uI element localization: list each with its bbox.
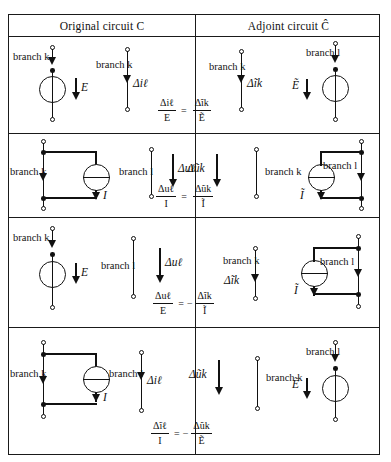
lhs-denominator: E xyxy=(158,304,168,317)
source-arrow-icon xyxy=(72,276,80,284)
source-symbol-label: E xyxy=(81,266,88,278)
wire-bottom-rail xyxy=(320,197,362,199)
terminal-bottom-node xyxy=(50,117,55,122)
terminal-bottom-node xyxy=(254,194,259,199)
source-symbol-label: Ẽ xyxy=(292,378,299,390)
wire-source-top xyxy=(320,152,322,166)
source-arrow-icon xyxy=(303,391,311,399)
row-1-right-cell: branch k Δĩk branch l Ẽ xyxy=(196,37,381,133)
current-source-symbol xyxy=(83,164,110,191)
lhs-numerator: Δuℓ xyxy=(156,183,176,197)
terminal-bottom-node xyxy=(41,206,46,211)
response-quantity-label: Δĩk xyxy=(224,274,239,286)
row-3-equation: Δuℓ E = − Δĩk Ĩ xyxy=(151,290,216,316)
wire-top-rail xyxy=(313,247,359,249)
rhs-denominator: Ĩ xyxy=(199,197,206,210)
branch-label: branch k xyxy=(265,166,301,177)
lhs-numerator: Δiℓ xyxy=(158,97,176,111)
branch-label: branch l xyxy=(109,368,143,379)
rhs-fraction: Δĩk Ĩ xyxy=(194,290,216,316)
rhs-denominator: Ẽ xyxy=(197,111,207,124)
source-symbol-label: Ẽ xyxy=(292,79,299,91)
voltage-arrow-icon xyxy=(215,387,223,395)
sign-prefix: − xyxy=(187,298,194,309)
voltage-arrow-icon xyxy=(156,275,164,283)
row-3-right-cell: branch k Δĩk Ĩ branch l xyxy=(196,218,381,327)
rhs-denominator: Ĩ xyxy=(201,304,208,317)
response-quantity-label: Δuℓ xyxy=(165,256,182,268)
branch-label: branch k xyxy=(209,61,245,72)
lhs-numerator: Δuℓ xyxy=(153,290,173,304)
branch-label: branch k xyxy=(10,166,46,177)
source-symbol-label: E xyxy=(81,81,88,93)
voltage-source-symbol xyxy=(322,75,349,102)
lhs-fraction: Δuℓ I xyxy=(154,183,178,209)
source-arrow-icon xyxy=(72,92,80,100)
wire-bottom-rail xyxy=(313,293,359,295)
branch-label: branch k xyxy=(13,51,49,62)
current-arrow-icon xyxy=(123,75,131,83)
wire-source-top xyxy=(313,248,315,262)
branch-label: branch k xyxy=(10,368,46,379)
sign-prefix: − xyxy=(183,428,190,439)
source-arrow-icon xyxy=(303,92,311,100)
response-quantity-label: Δũk xyxy=(187,162,205,174)
header-original-circuit: Original circuit C xyxy=(9,15,195,37)
branch-wire xyxy=(257,360,259,408)
current-arrow-icon xyxy=(251,274,259,282)
current-arrow-icon xyxy=(48,240,56,248)
rhs-numerator: Δũk xyxy=(191,420,211,434)
wire-top-rail xyxy=(43,151,97,153)
source-arrow-icon xyxy=(92,394,100,402)
source-symbol-label: I xyxy=(103,189,107,201)
row-1-equation: Δiℓ E = Δĩk Ẽ xyxy=(156,97,213,123)
rhs-numerator: Δũk xyxy=(193,183,213,197)
rhs-denominator: Ẽ xyxy=(196,434,206,447)
branch-label: branch k xyxy=(223,255,259,266)
header-adjoint-circuit: Adjoint circuit Ĉ xyxy=(196,15,381,37)
terminal-bottom-node xyxy=(356,304,361,309)
branch-label: branch l xyxy=(323,160,357,171)
wire-top-rail xyxy=(320,151,362,153)
current-arrow-icon xyxy=(354,269,362,277)
branch-label: branch k xyxy=(13,232,49,243)
rhs-numerator: Δĩk xyxy=(193,97,211,111)
terminal-bottom-node xyxy=(41,414,46,419)
terminal-bottom-node xyxy=(239,107,244,112)
current-arrow-icon xyxy=(237,75,245,83)
row-4-equation: Δĩℓ I = − Δũk Ẽ xyxy=(149,420,214,446)
wire-bottom-rail xyxy=(43,197,97,199)
wire-top-rail xyxy=(43,353,97,355)
current-arrow-icon xyxy=(48,57,56,65)
terminal-bottom-node xyxy=(255,406,260,411)
voltage-source-symbol xyxy=(322,375,349,402)
response-quantity-label: Δĩk xyxy=(247,77,262,89)
branch-label: branch l xyxy=(306,346,340,357)
terminal-bottom-node xyxy=(50,305,55,310)
source-symbol-label: I xyxy=(103,391,107,403)
equals-sign: = xyxy=(175,298,187,309)
terminal-bottom-node xyxy=(359,206,364,211)
response-quantity-label: Δũk xyxy=(189,368,207,380)
lhs-fraction: Δiℓ E xyxy=(156,97,178,123)
equals-sign: = xyxy=(178,105,190,116)
source-symbol-label: Ĩ xyxy=(294,284,298,296)
rhs-fraction: Δĩk Ẽ xyxy=(191,97,213,123)
lhs-numerator: Δĩℓ xyxy=(151,420,169,434)
lhs-fraction: Δuℓ E xyxy=(151,290,175,316)
terminal-bottom-node xyxy=(253,296,258,301)
adjoint-circuit-table: Original circuit C Adjoint circuit Ĉ bra… xyxy=(8,14,380,455)
equals-sign: = xyxy=(178,191,190,202)
row-2-right-cell: Δũk branch k Ĩ branch l xyxy=(196,134,381,217)
lhs-denominator: I xyxy=(162,197,169,210)
branch-label: branch l xyxy=(320,256,354,267)
branch-wire xyxy=(141,354,143,410)
equals-sign: = xyxy=(171,428,183,439)
response-quantity-label: Δiℓ xyxy=(147,374,162,386)
wire-bottom xyxy=(52,287,54,307)
lhs-fraction: Δĩℓ I xyxy=(149,420,171,446)
branch-label: branch l xyxy=(101,260,135,271)
current-arrow-icon xyxy=(357,173,365,181)
terminal-bottom-node xyxy=(333,117,338,122)
response-quantity-label: Δiℓ xyxy=(133,77,148,89)
